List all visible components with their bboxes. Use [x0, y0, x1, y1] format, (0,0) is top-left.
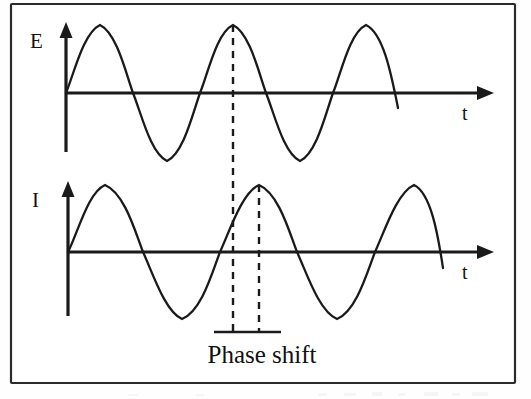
- phase-shift-diagram: E t I t Phase shift: [0, 0, 531, 399]
- figure-container: E t I t Phase shift: [0, 0, 531, 399]
- voltage-axis-label: E: [30, 29, 43, 53]
- figure-border: [11, 4, 515, 383]
- current-time-label: t: [462, 261, 468, 283]
- phase-shift-caption: Phase shift: [207, 341, 316, 368]
- voltage-time-label: t: [462, 102, 468, 124]
- current-axis-label: I: [32, 188, 39, 212]
